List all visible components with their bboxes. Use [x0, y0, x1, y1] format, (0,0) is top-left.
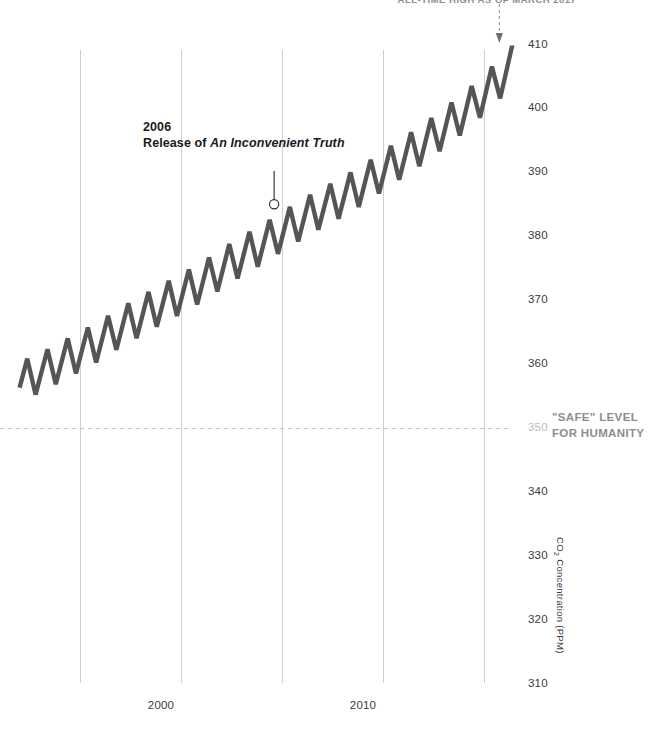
- annotation-marker-group: [270, 171, 279, 209]
- y-tick-label-340: 340: [528, 485, 548, 497]
- y-axis-title: CO2 Concentration (PPM): [552, 537, 566, 654]
- all-time-high-arrow: [496, 4, 503, 43]
- annotation-text-title: An Inconvenient Truth: [210, 136, 345, 150]
- safe-level-label: "SAFE" LEVEL FOR HUMANITY: [552, 410, 644, 441]
- y-tick-label-400: 400: [528, 101, 548, 113]
- all-time-high-label: ALL-TIME HIGH AS OF MARCH 2017: [398, 0, 577, 5]
- y-tick-label-320: 320: [528, 613, 548, 625]
- y-tick-label-380: 380: [528, 229, 548, 241]
- annotation-inconvenient-truth: 2006 Release of An Inconvenient Truth: [143, 119, 345, 151]
- x-tick-label-2000: 2000: [148, 699, 174, 711]
- annotation-text: Release of An Inconvenient Truth: [143, 135, 345, 151]
- x-tick-label-2010: 2010: [350, 699, 376, 711]
- y-tick-label-360: 360: [528, 357, 548, 369]
- y-tick-label-390: 390: [528, 165, 548, 177]
- co2-concentration-chart: 410400390380370360350340330320310 200020…: [0, 0, 663, 734]
- y-tick-label-330: 330: [528, 549, 548, 561]
- safe-level-label-line1: "SAFE" LEVEL: [552, 410, 644, 426]
- y-tick-label-350: 350: [528, 421, 548, 433]
- y-tick-label-410: 410: [528, 38, 548, 50]
- co2-series-line: [20, 46, 513, 395]
- annotation-year: 2006: [143, 119, 345, 135]
- annotation-text-prefix: Release of: [143, 136, 210, 150]
- y-tick-label-310: 310: [528, 677, 548, 689]
- safe-level-label-line2: FOR HUMANITY: [552, 426, 644, 442]
- y-tick-label-370: 370: [528, 293, 548, 305]
